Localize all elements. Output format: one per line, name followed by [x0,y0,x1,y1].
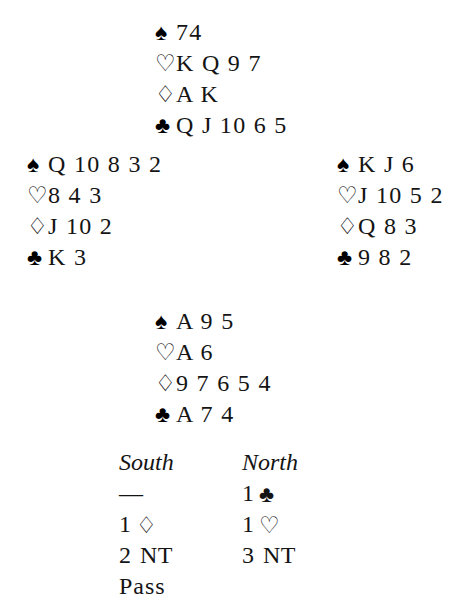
diamond-icon: ♢ [155,83,176,106]
club-icon: ♣ [155,403,176,426]
auction-bid-north-1: 1 ♣ [242,478,298,509]
hand-east-hearts: ♡ J 10 5 2 [337,179,444,210]
auction-bid-south-4: Pass [119,571,242,602]
hand-east: ♠ K J 6 ♡ J 10 5 2 ♢ Q 8 3 ♣ 9 8 2 [337,148,444,272]
hand-west-diamonds: ♢ J 10 2 [27,210,162,241]
heart-icon: ♡ [259,510,280,541]
auction-bid-north-4 [242,571,298,602]
hand-south-spades-cards: A 9 5 [176,309,235,333]
spade-icon: ♠ [155,310,176,333]
hand-west-spades-cards: Q 10 8 3 2 [48,152,162,176]
auction-header-south: South [119,446,242,478]
auction-bid-south-2-level: 1 [119,509,132,540]
hand-north-spades-cards: 74 [176,20,203,44]
diamond-icon: ♢ [27,215,48,238]
hand-south: ♠ A 9 5 ♡ A 6 ♢ 9 7 6 5 4 ♣ A 7 4 [155,305,272,429]
hand-east-spades-cards: K J 6 [358,152,415,176]
hand-south-spades: ♠ A 9 5 [155,305,272,336]
spade-icon: ♠ [27,153,48,176]
hand-west-clubs: ♣ K 3 [27,241,162,272]
auction-bid-south-1-level: — [119,478,144,509]
auction-bid-north-1-level: 1 [242,478,255,509]
hand-north-hearts-cards: K Q 9 7 [176,51,262,75]
hand-north-clubs-cards: Q J 10 6 5 [176,113,288,137]
hand-north-hearts: ♡ K Q 9 7 [155,47,288,78]
heart-icon: ♡ [27,184,48,207]
auction-bid-south-3: 2 NT [119,540,242,571]
auction-table: South North — 1 ♣ 1 ♢ 1 ♡ [119,446,298,602]
diamond-icon: ♢ [136,510,157,541]
hand-south-diamonds: ♢ 9 7 6 5 4 [155,367,272,398]
club-icon: ♣ [27,246,48,269]
club-icon: ♣ [155,114,176,137]
hand-north-diamonds: ♢ A K [155,78,288,109]
auction-bid-south-3-level: 2 [119,540,132,571]
auction-bid-south-2: 1 ♢ [119,509,242,540]
hand-east-clubs: ♣ 9 8 2 [337,241,444,272]
diamond-icon: ♢ [155,372,176,395]
spade-icon: ♠ [155,21,176,44]
hand-south-clubs: ♣ A 7 4 [155,398,272,429]
hand-east-spades: ♠ K J 6 [337,148,444,179]
hand-south-clubs-cards: A 7 4 [176,402,235,426]
hand-east-hearts-cards: J 10 5 2 [358,183,444,207]
heart-icon: ♡ [155,341,176,364]
hand-east-diamonds-cards: Q 8 3 [358,214,418,238]
hand-west-hearts: ♡ 8 4 3 [27,179,162,210]
bridge-deal-diagram: ♠ 74 ♡ K Q 9 7 ♢ A K ♣ Q J 10 6 5 ♠ Q 10… [0,0,456,615]
club-icon: ♣ [337,246,358,269]
hand-west-hearts-cards: 8 4 3 [48,183,103,207]
heart-icon: ♡ [337,184,358,207]
auction-bid-north-3-level: 3 [242,540,255,571]
spade-icon: ♠ [337,153,358,176]
hand-north-diamonds-cards: A K [176,82,219,106]
auction-bid-north-3: 3 NT [242,540,298,571]
auction-bid-south-4-level: Pass [119,571,166,602]
hand-south-hearts: ♡ A 6 [155,336,272,367]
diamond-icon: ♢ [337,215,358,238]
heart-icon: ♡ [155,52,176,75]
hand-west-diamonds-cards: J 10 2 [48,214,113,238]
hand-south-diamonds-cards: 9 7 6 5 4 [176,371,272,395]
hand-north: ♠ 74 ♡ K Q 9 7 ♢ A K ♣ Q J 10 6 5 [155,16,288,140]
auction-bid-south-3-nt: NT [140,540,173,571]
hand-north-spades: ♠ 74 [155,16,288,47]
auction-bid-north-2: 1 ♡ [242,509,298,540]
auction-bid-south-1: — [119,478,242,509]
auction-bid-north-2-level: 1 [242,509,255,540]
hand-east-clubs-cards: 9 8 2 [358,245,413,269]
hand-west-spades: ♠ Q 10 8 3 2 [27,148,162,179]
auction-bid-north-3-nt: NT [263,540,296,571]
hand-west: ♠ Q 10 8 3 2 ♡ 8 4 3 ♢ J 10 2 ♣ K 3 [27,148,162,272]
club-icon: ♣ [259,479,274,510]
hand-north-clubs: ♣ Q J 10 6 5 [155,109,288,140]
hand-west-clubs-cards: K 3 [48,245,87,269]
auction-header-north: North [242,446,298,478]
hand-south-hearts-cards: A 6 [176,340,214,364]
hand-east-diamonds: ♢ Q 8 3 [337,210,444,241]
